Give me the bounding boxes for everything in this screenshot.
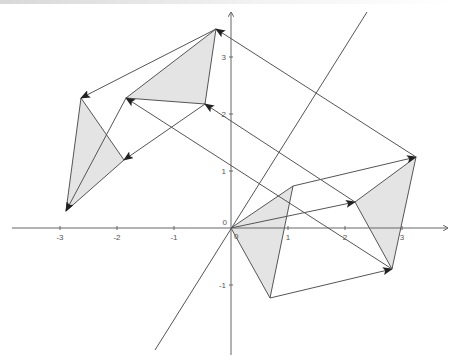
vector-arrow <box>124 104 205 160</box>
triangle-right-image <box>355 157 416 269</box>
x-tick-label: -1 <box>170 233 178 242</box>
y-tick-label: 1 <box>222 167 227 176</box>
x-tick-label: 1 <box>286 233 291 242</box>
x-tick-label: -2 <box>113 233 121 242</box>
triangle-original <box>231 186 293 298</box>
y-tick-label: 2 <box>222 110 227 119</box>
x-tick-label: 2 <box>343 233 348 242</box>
diagram-canvas: -3-2-1123321-100 <box>0 0 456 362</box>
vector-arrow <box>205 104 355 202</box>
triangle-upper-image <box>126 29 216 104</box>
x-tick-label: 3 <box>400 233 405 242</box>
vector-arrow <box>270 269 392 298</box>
origin-label-secondary: 0 <box>234 232 239 241</box>
y-tick-label: -1 <box>219 281 227 290</box>
shaded-triangles <box>66 29 416 298</box>
origin-label: 0 <box>223 218 228 227</box>
vector-arrow <box>216 29 416 157</box>
x-tick-label: -3 <box>56 233 64 242</box>
y-tick-label: 3 <box>222 53 227 62</box>
